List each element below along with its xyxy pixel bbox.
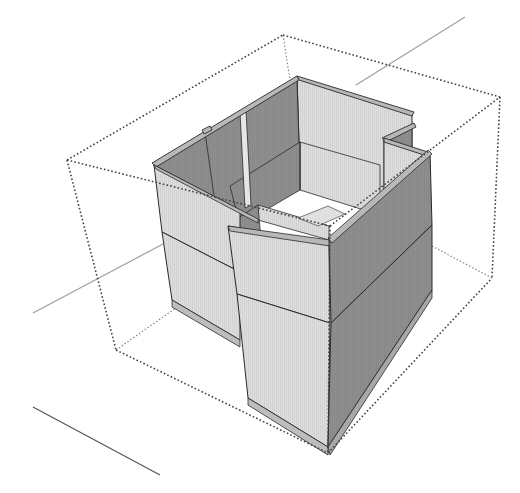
- red-axis-front: [33, 407, 160, 475]
- building-model[interactable]: [152, 76, 432, 455]
- model-canvas: [0, 0, 520, 493]
- model-viewport[interactable]: [0, 0, 520, 493]
- green-axis-back: [356, 17, 465, 85]
